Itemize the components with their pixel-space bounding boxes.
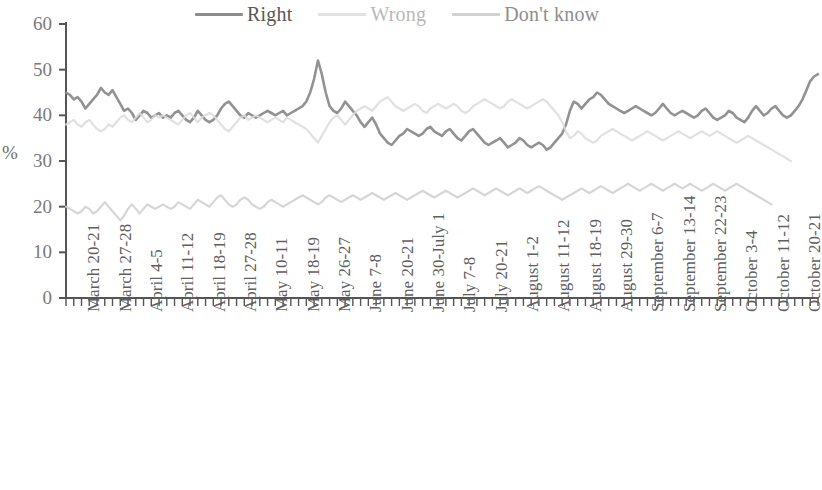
x-tick-label: July 20-21: [493, 240, 510, 312]
x-tick-label: June 7-8: [367, 254, 384, 312]
x-tick-label: September 22-23: [712, 195, 729, 312]
x-tick-label: April 18-19: [211, 232, 228, 312]
x-tick-label: September 6-7: [649, 212, 666, 312]
x-tick-label: May 26-27: [336, 237, 353, 312]
x-tick-label: April 4-5: [148, 249, 165, 312]
x-tick-label: March 20-21: [85, 224, 102, 312]
x-tick-label: May 10-11: [273, 238, 290, 312]
x-tick-label: October 11-12: [775, 214, 792, 312]
x-tick-label: June 20-21: [399, 237, 416, 312]
x-tick-label: August 29-30: [618, 219, 635, 312]
x-tick-label: September 13-14: [681, 195, 698, 312]
x-tick-label: August 11-12: [555, 220, 572, 312]
x-tick-label: July 7-8: [461, 257, 478, 312]
x-tick-label: May 18-19: [305, 237, 322, 312]
x-tick-label: August 1-2: [524, 236, 541, 312]
x-tick-label: April 11-12: [179, 233, 196, 312]
x-axis-tick-labels: March 20-21March 27-28April 4-5April 11-…: [0, 0, 822, 490]
x-tick-label: June 30-July 1: [430, 213, 447, 312]
x-tick-label: March 27-28: [117, 224, 134, 312]
polling-trend-chart: Right Wrong Don't know % 0102030405060 M…: [0, 0, 822, 490]
x-tick-label: April 27-28: [242, 232, 259, 312]
x-tick-label: August 18-19: [587, 219, 604, 312]
x-tick-label: October 3-4: [743, 230, 760, 312]
x-tick-label: October 20-21: [806, 213, 822, 312]
